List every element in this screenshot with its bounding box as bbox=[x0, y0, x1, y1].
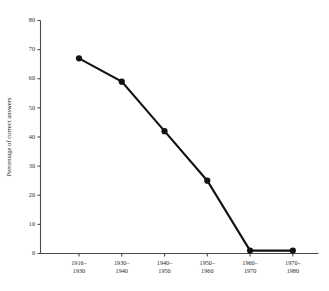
data-point bbox=[119, 79, 125, 85]
x-axis-tick-label: 1960– bbox=[242, 259, 258, 266]
y-axis-tick-label: 30 bbox=[29, 162, 35, 169]
data-point bbox=[161, 128, 167, 134]
series-line bbox=[79, 58, 293, 250]
x-axis-tick-label: 1960 bbox=[201, 267, 213, 274]
x-axis-tick-label: 1970– bbox=[285, 259, 301, 266]
line-chart: 01020304050607080 1916–19301930–19401940… bbox=[0, 0, 329, 291]
data-series bbox=[76, 55, 296, 253]
x-axis-tick-label: 1950– bbox=[200, 259, 216, 266]
x-axis: 1916–19301930–19401940–19501950–19601960… bbox=[41, 254, 319, 274]
data-point bbox=[204, 178, 210, 184]
data-point bbox=[290, 247, 296, 253]
x-axis-tick-label: 1980 bbox=[287, 267, 299, 274]
y-axis-tick-label: 20 bbox=[29, 191, 35, 198]
y-axis: 01020304050607080 bbox=[29, 16, 41, 256]
y-axis-tick-label: 60 bbox=[29, 74, 35, 81]
data-point bbox=[247, 247, 253, 253]
x-axis-tick-label: 1950 bbox=[158, 267, 170, 274]
y-axis-tick-label: 50 bbox=[29, 104, 35, 111]
y-axis-tick-label: 0 bbox=[32, 249, 35, 256]
x-axis-tick-label: 1916– bbox=[71, 259, 87, 266]
x-axis-tick-label: 1930 bbox=[73, 267, 85, 274]
y-axis-tick-label: 70 bbox=[29, 45, 35, 52]
data-point bbox=[76, 55, 82, 61]
y-axis-title: Percentage of correct answers bbox=[5, 97, 12, 176]
x-axis-tick-label: 1940– bbox=[157, 259, 173, 266]
x-axis-tick-label: 1970 bbox=[244, 267, 256, 274]
y-axis-tick-label: 80 bbox=[29, 16, 35, 23]
x-axis-tick-label: 1930– bbox=[114, 259, 130, 266]
y-axis-tick-label: 40 bbox=[29, 133, 35, 140]
chart-container: 01020304050607080 1916–19301930–19401940… bbox=[0, 0, 329, 291]
x-axis-tick-label: 1940 bbox=[116, 267, 128, 274]
y-axis-tick-label: 10 bbox=[29, 220, 35, 227]
